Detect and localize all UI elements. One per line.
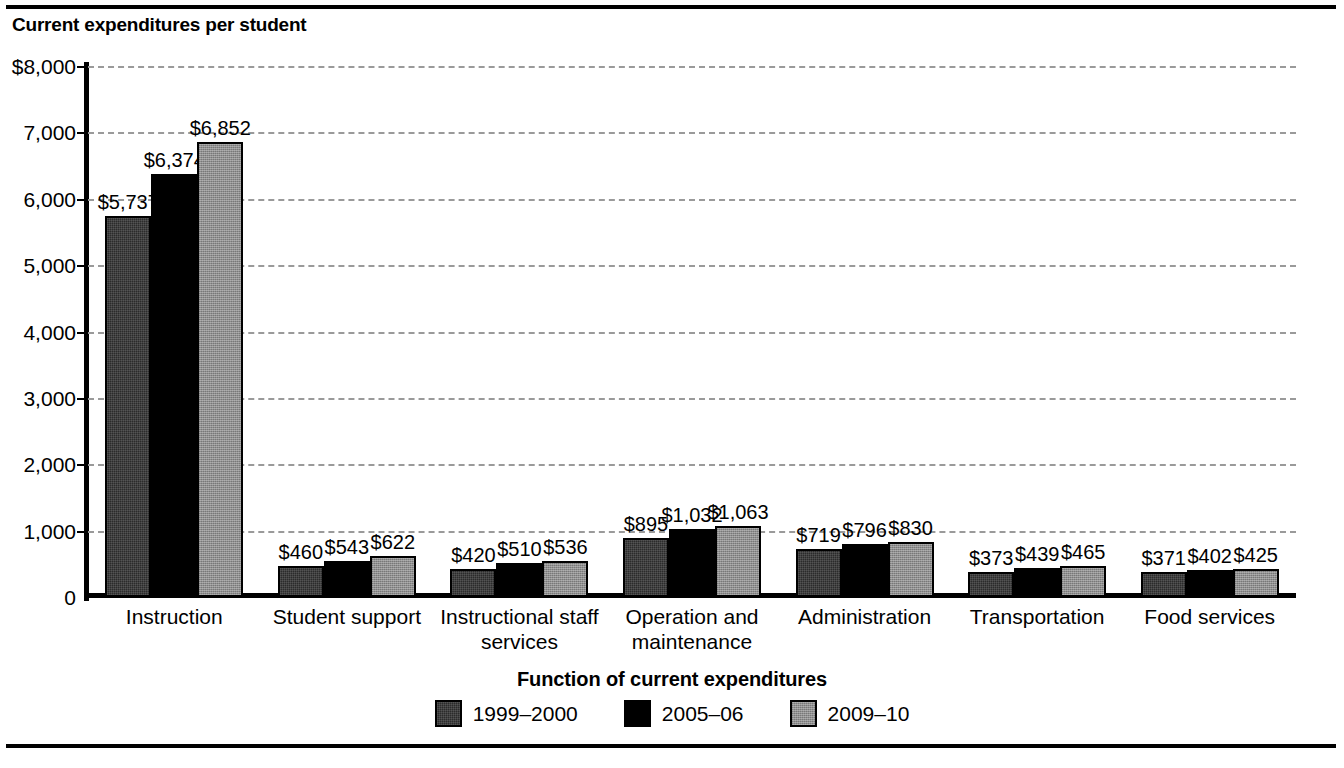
bar bbox=[1187, 570, 1233, 597]
legend-item[interactable]: 1999–2000 bbox=[435, 700, 578, 727]
bar bbox=[324, 561, 370, 597]
gridline bbox=[88, 66, 1296, 68]
y-axis-tick bbox=[77, 464, 88, 466]
y-axis-tick-labels: $8,0007,0006,0005,0004,0003,0002,0001,00… bbox=[0, 0, 76, 768]
gridline bbox=[88, 132, 1296, 134]
chart-figure: Current expenditures per student $8,0007… bbox=[0, 0, 1344, 768]
x-axis-category-label: Instruction bbox=[74, 604, 275, 629]
bar-value-label: $465 bbox=[1048, 542, 1118, 562]
gridline bbox=[88, 464, 1296, 466]
bar bbox=[842, 544, 888, 597]
bar-value-label: $536 bbox=[530, 537, 600, 557]
bar bbox=[151, 174, 197, 597]
x-axis-category-label: Transportation bbox=[937, 604, 1138, 629]
x-axis-category-label: Instructional staff services bbox=[419, 604, 620, 654]
bar bbox=[888, 542, 934, 597]
top-divider-rule bbox=[6, 5, 1336, 9]
y-axis-tick-label: $8,000 bbox=[0, 56, 76, 77]
bar bbox=[105, 216, 151, 597]
y-axis-tick-label: 7,000 bbox=[0, 122, 76, 143]
legend-label: 2009–10 bbox=[828, 702, 910, 726]
y-axis-tick bbox=[77, 332, 88, 334]
x-axis-category-label: Administration bbox=[764, 604, 965, 629]
x-axis-category-label: Operation and maintenance bbox=[592, 604, 793, 654]
bar bbox=[623, 538, 669, 597]
bar bbox=[669, 529, 715, 597]
y-axis-tick-label: 3,000 bbox=[0, 388, 76, 409]
x-axis-category-label: Food services bbox=[1109, 604, 1310, 629]
gridline bbox=[88, 398, 1296, 400]
x-axis-title: Function of current expenditures bbox=[0, 668, 1344, 691]
chart-legend: 1999–20002005–062009–10 bbox=[0, 700, 1344, 727]
bar-value-label: $830 bbox=[876, 518, 946, 538]
bar bbox=[370, 556, 416, 597]
bar bbox=[496, 563, 542, 597]
legend-item[interactable]: 2009–10 bbox=[790, 700, 910, 727]
legend-swatch-icon bbox=[435, 700, 462, 727]
gridline bbox=[88, 265, 1296, 267]
bar bbox=[715, 526, 761, 597]
y-axis-tick-label: 5,000 bbox=[0, 255, 76, 276]
bar bbox=[968, 572, 1014, 597]
bar bbox=[197, 142, 243, 597]
legend-item[interactable]: 2005–06 bbox=[624, 700, 744, 727]
y-axis-tick bbox=[77, 199, 88, 201]
y-axis-tick-label: 2,000 bbox=[0, 454, 76, 475]
bar bbox=[1233, 569, 1279, 597]
bar bbox=[450, 569, 496, 597]
bar-value-label: $425 bbox=[1221, 545, 1291, 565]
y-axis-tick bbox=[77, 398, 88, 400]
y-axis-tick bbox=[77, 66, 88, 68]
gridline bbox=[88, 199, 1296, 201]
bar bbox=[542, 561, 588, 597]
bar bbox=[1014, 568, 1060, 597]
y-axis-tick-label: 1,000 bbox=[0, 521, 76, 542]
y-axis-tick bbox=[77, 132, 88, 134]
legend-swatch-icon bbox=[624, 700, 651, 727]
x-axis-category-label: Student support bbox=[247, 604, 448, 629]
y-axis-tick bbox=[77, 265, 88, 267]
legend-label: 1999–2000 bbox=[473, 702, 578, 726]
y-axis-tick-label: 0 bbox=[0, 587, 76, 608]
bar bbox=[1060, 566, 1106, 597]
bar bbox=[278, 566, 324, 597]
y-axis-tick-label: 6,000 bbox=[0, 189, 76, 210]
bar-value-label: $1,063 bbox=[703, 502, 773, 522]
y-axis-tick-label: 4,000 bbox=[0, 322, 76, 343]
bottom-divider-rule bbox=[6, 744, 1336, 748]
legend-swatch-icon bbox=[790, 700, 817, 727]
bar bbox=[1141, 572, 1187, 597]
bar-value-label: $6,852 bbox=[185, 118, 255, 138]
y-axis-tick bbox=[77, 531, 88, 533]
bar bbox=[796, 549, 842, 597]
plot-area: $5,737$6,374$6,852$460$543$622$420$510$5… bbox=[88, 66, 1296, 597]
bar-value-label: $622 bbox=[358, 532, 428, 552]
gridline bbox=[88, 332, 1296, 334]
legend-label: 2005–06 bbox=[662, 702, 744, 726]
